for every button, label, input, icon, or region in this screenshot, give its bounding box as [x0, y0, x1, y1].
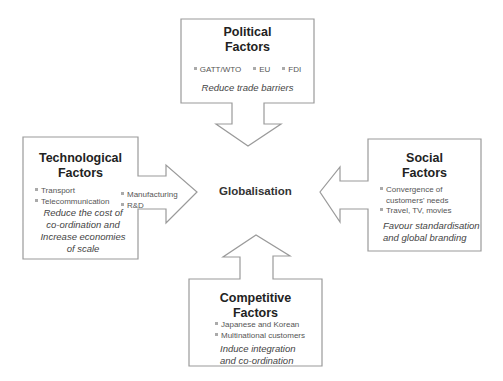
political-bullets: GATT/WTO EU FDI — [181, 65, 314, 76]
social-title: Social Factors — [368, 151, 481, 181]
political-title-line1: Political — [181, 25, 314, 40]
technological-title-line2: Factors — [23, 166, 138, 181]
social-title-line1: Social — [368, 151, 481, 166]
bullet-item: Convergence of — [380, 185, 452, 196]
bullet-item: FDI — [282, 65, 301, 76]
bullet-item: Japanese and Korean — [215, 320, 305, 331]
bullet-item: Multinational customers — [215, 331, 305, 342]
social-bullets: Convergence of customers' needs Travel, … — [380, 185, 452, 217]
technological-title-line1: Technological — [23, 151, 138, 166]
bullet-item: GATT/WTO — [194, 65, 241, 76]
note-line: co-ordination and — [33, 219, 133, 231]
bullet-continuation: customers' needs — [380, 196, 452, 207]
competitive-bullets: Japanese and Korean Multinational custom… — [215, 320, 305, 341]
competitive-title-line1: Competitive — [189, 291, 322, 306]
political-note: Reduce trade barriers — [181, 82, 314, 94]
competitive-factors-box: Competitive Factors — [189, 291, 322, 321]
bullet-item: EU — [253, 65, 270, 76]
note-line: Favour standardisation — [383, 220, 480, 232]
bullet-item: Travel, TV, movies — [380, 206, 452, 217]
technological-title: Technological Factors — [23, 151, 138, 181]
political-factors-box: Political Factors GATT/WTO EU FDI Reduce… — [181, 25, 314, 94]
note-line: and co-ordination — [220, 355, 296, 367]
competitive-title-line2: Factors — [189, 306, 322, 321]
bullet-item: Telecommunication — [35, 197, 109, 208]
technological-note: Reduce the cost of co-ordination and Inc… — [33, 207, 133, 255]
social-note: Favour standardisation and global brandi… — [383, 220, 480, 244]
technological-factors-box: Technological Factors — [23, 151, 138, 181]
globalisation-label: Globalisation — [219, 185, 292, 197]
note-line: Reduce the cost of — [33, 207, 133, 219]
note-line: Increase economies — [33, 231, 133, 243]
social-title-line2: Factors — [368, 166, 481, 181]
bullet-item: Transport — [35, 186, 109, 197]
competitive-title: Competitive Factors — [189, 291, 322, 321]
note-line: of scale — [33, 243, 133, 255]
competitive-note: Induce integration and co-ordination — [220, 343, 296, 367]
note-line: Induce integration — [220, 343, 296, 355]
note-line: and global branding — [383, 232, 480, 244]
technological-bullets-left: Transport Telecommunication — [35, 186, 109, 207]
social-factors-box: Social Factors — [368, 151, 481, 181]
political-title: Political Factors — [181, 25, 314, 55]
bullet-item: Manufacturing — [121, 190, 178, 201]
political-title-line2: Factors — [181, 40, 314, 55]
